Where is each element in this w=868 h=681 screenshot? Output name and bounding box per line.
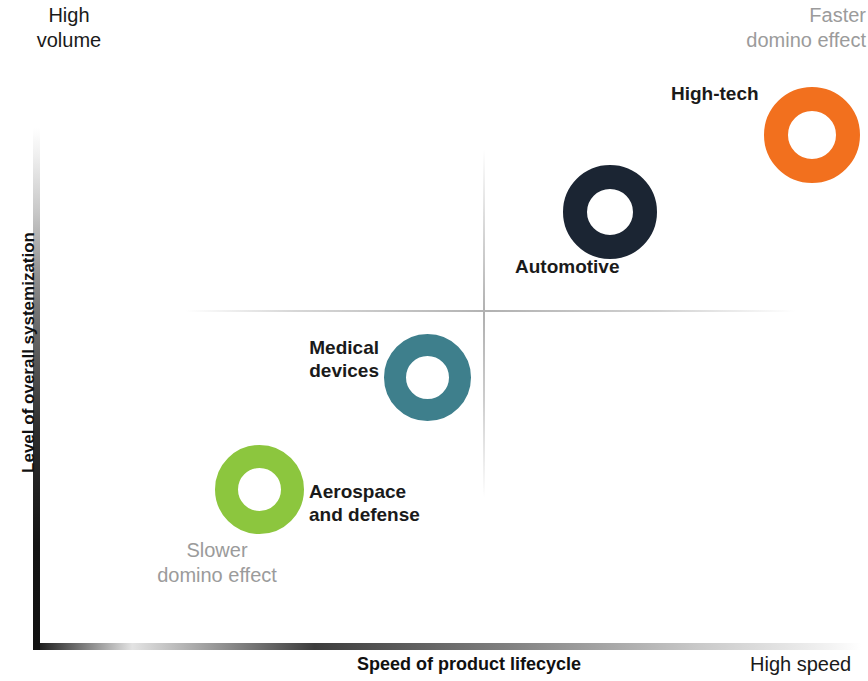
axis-caption-high-volume: High volume: [15, 3, 123, 53]
axis-caption-high-speed: High speed: [750, 652, 851, 677]
quadrant-bubble-chart: High-tech Automotive Medical devices Aer…: [0, 0, 868, 681]
bubble-high-tech[interactable]: [764, 87, 860, 183]
bubble-label-aerospace-and-defense: Aerospace and defense: [309, 480, 420, 526]
bubble-label-medical-devices: Medical devices: [299, 336, 379, 382]
bubble-medical-devices[interactable]: [384, 334, 471, 421]
x-axis-title: Speed of product lifecycle: [357, 653, 581, 675]
bubble-label-high-tech: High-tech: [671, 82, 759, 105]
bubble-automotive[interactable]: [563, 165, 657, 259]
annotation-slower-domino-effect: Slower domino effect: [141, 538, 293, 588]
quadrant-horizontal-line: [185, 310, 795, 312]
x-axis-line: [33, 643, 861, 650]
bubble-label-automotive: Automotive: [515, 255, 620, 278]
y-axis-title: Level of overall systemization: [0, 232, 24, 522]
quadrant-vertical-line: [483, 150, 485, 498]
annotation-faster-domino-effect: Faster domino effect: [722, 3, 866, 53]
bubble-aerospace-and-defense[interactable]: [215, 445, 304, 534]
y-axis-title-text: Level of overall systemization: [19, 232, 39, 473]
